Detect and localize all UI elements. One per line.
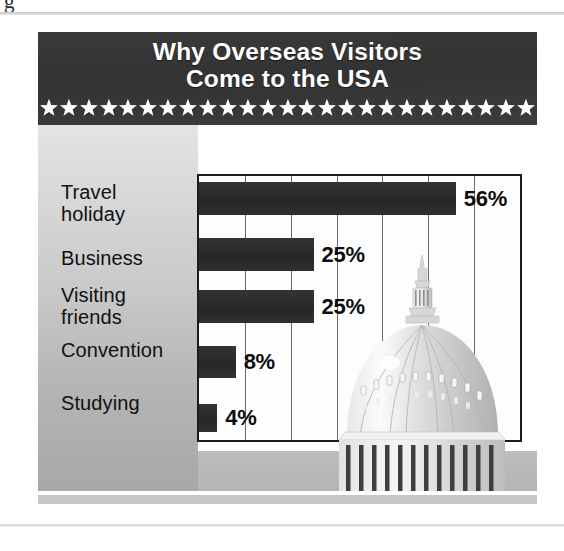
star-icon [198, 98, 218, 118]
star-icon [238, 98, 258, 118]
infographic-panel: Why Overseas Visitors Come to the USA Tr… [38, 32, 537, 491]
star-icon [178, 98, 198, 118]
page-bottom-rule [0, 524, 564, 527]
star-icon [476, 98, 496, 118]
infographic-body: Travel holidayBusinessVisiting friendsCo… [38, 125, 537, 491]
star-icon [337, 98, 357, 118]
infographic-title: Why Overseas Visitors Come to the USA [38, 38, 537, 92]
star-icon [39, 98, 59, 118]
star-icon [118, 98, 138, 118]
star-decoration-row [38, 95, 537, 121]
star-icon [397, 98, 417, 118]
chart-bar [199, 290, 314, 323]
chart-bar [199, 238, 314, 271]
chart-bar [199, 182, 456, 215]
chart-value-label: 4% [225, 405, 256, 431]
star-icon [99, 98, 119, 118]
chart-value-label: 56% [464, 186, 507, 212]
category-label-column-base [38, 451, 198, 491]
star-icon [278, 98, 298, 118]
chart-bar [199, 346, 236, 378]
page-corner-glyph: g [4, 0, 15, 12]
infographic-header: Why Overseas Visitors Come to the USA [38, 32, 537, 125]
category-label: Visiting friends [61, 284, 201, 328]
star-icon [496, 98, 516, 118]
chart-value-label: 25% [322, 242, 365, 268]
star-icon [457, 98, 477, 118]
chart-base-band [198, 451, 537, 491]
star-icon [417, 98, 437, 118]
chart-value-label: 25% [322, 294, 365, 320]
star-icon [218, 98, 238, 118]
star-icon [59, 98, 79, 118]
panel-base-strip [38, 495, 537, 504]
page-top-rule [0, 12, 564, 15]
category-label: Business [61, 247, 201, 269]
star-icon [138, 98, 158, 118]
star-icon [317, 98, 337, 118]
category-label: Convention [61, 339, 201, 361]
star-icon [516, 98, 536, 118]
star-icon [158, 98, 178, 118]
category-label: Studying [61, 392, 201, 414]
star-icon [297, 98, 317, 118]
star-icon [258, 98, 278, 118]
star-icon [437, 98, 457, 118]
chart-bar [199, 404, 217, 432]
star-icon [357, 98, 377, 118]
star-icon [79, 98, 99, 118]
chart-value-label: 8% [244, 349, 275, 375]
star-icon [377, 98, 397, 118]
category-label: Travel holiday [61, 181, 201, 225]
